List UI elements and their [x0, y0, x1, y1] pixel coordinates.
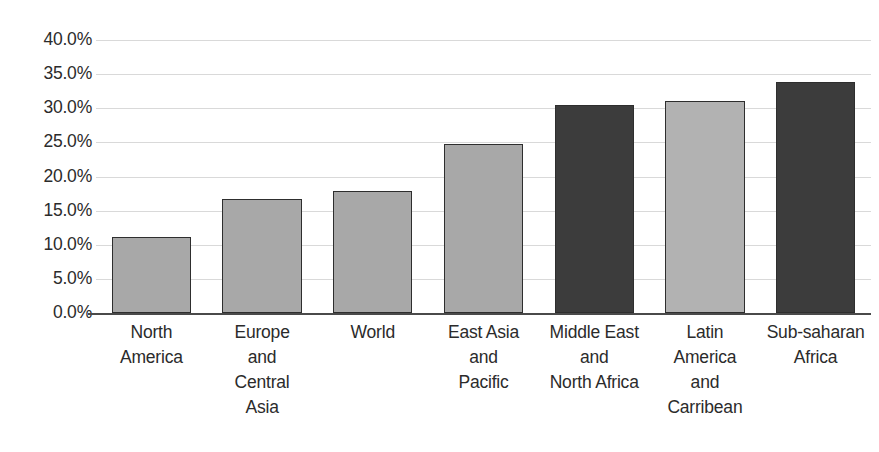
x-axis-tick-label: Middle EastandNorth Africa: [539, 320, 650, 395]
x-axis-label-line: Asia: [207, 395, 318, 420]
plot-area: [96, 40, 871, 313]
x-axis-label-line: and: [539, 345, 650, 370]
y-axis-tick-label: 30.0%: [6, 100, 92, 118]
y-axis: 40.0%35.0%30.0%25.0%20.0%15.0%10.0%5.0%0…: [0, 0, 92, 452]
bar: [776, 82, 855, 313]
x-axis-label-line: North: [96, 320, 207, 345]
x-axis-label-line: East Asia: [428, 320, 539, 345]
y-axis-tick-label: 10.0%: [6, 236, 92, 254]
y-axis-tick-label: 20.0%: [6, 168, 92, 186]
gridline: [96, 40, 871, 41]
x-axis-tick-label: LatinAmericaandCarribean: [650, 320, 761, 420]
x-axis-label-line: Middle East: [539, 320, 650, 345]
y-axis-tick-label: 35.0%: [6, 65, 92, 83]
gridline: [96, 108, 871, 109]
x-axis-label-line: America: [96, 345, 207, 370]
x-axis-label-line: Latin: [650, 320, 761, 345]
bar: [333, 191, 412, 313]
x-axis-label-line: and: [428, 345, 539, 370]
gridline: [96, 142, 871, 143]
x-axis-label-line: World: [317, 320, 428, 345]
x-axis-tick-label: World: [317, 320, 428, 345]
x-axis-label-line: America: [650, 345, 761, 370]
bar: [665, 101, 744, 313]
bar: [555, 105, 634, 313]
x-axis-label-line: Central: [207, 370, 318, 395]
x-axis-tick-label: East AsiaandPacific: [428, 320, 539, 395]
x-axis-tick-label: Sub-saharanAfrica: [760, 320, 871, 370]
x-axis-label-line: North Africa: [539, 370, 650, 395]
x-axis-line: [88, 313, 871, 315]
y-axis-tick-label: 15.0%: [6, 202, 92, 220]
gridline: [96, 74, 871, 75]
bar: [112, 237, 191, 313]
bar: [222, 199, 301, 313]
bar-chart: 40.0%35.0%30.0%25.0%20.0%15.0%10.0%5.0%0…: [0, 0, 879, 452]
y-axis-tick-label: 40.0%: [6, 31, 92, 49]
x-axis-labels: NorthAmericaEuropeandCentralAsiaWorldEas…: [96, 320, 871, 450]
bar: [444, 144, 523, 313]
y-axis-tick-label: 5.0%: [6, 270, 92, 288]
x-axis-label-line: and: [207, 345, 318, 370]
x-axis-label-line: Africa: [760, 345, 871, 370]
y-axis-tick-label: 0.0%: [6, 304, 92, 322]
x-axis-label-line: Carribean: [650, 395, 761, 420]
x-axis-label-line: Europe: [207, 320, 318, 345]
y-axis-tick-label: 25.0%: [6, 134, 92, 152]
x-axis-label-line: Sub-saharan: [760, 320, 871, 345]
x-axis-label-line: Pacific: [428, 370, 539, 395]
x-axis-tick-label: EuropeandCentralAsia: [207, 320, 318, 420]
x-axis-tick-label: NorthAmerica: [96, 320, 207, 370]
x-axis-label-line: and: [650, 370, 761, 395]
